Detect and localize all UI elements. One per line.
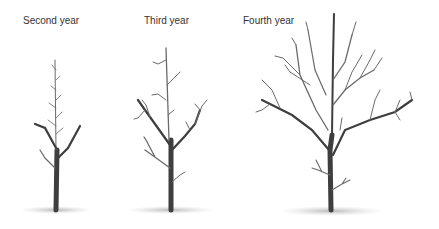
tree-second-year xyxy=(20,60,92,214)
tree-third-year xyxy=(126,48,214,214)
tree-fourth-year xyxy=(256,14,412,216)
tree-illustrations xyxy=(0,0,439,229)
